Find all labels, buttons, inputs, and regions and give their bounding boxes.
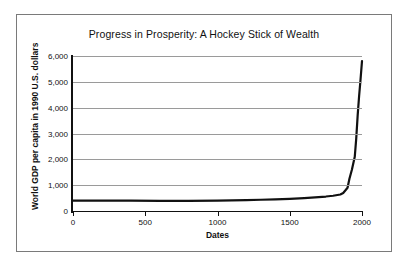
x-axis-tick-label: 1500 bbox=[281, 218, 299, 227]
y-axis-tick-label: 5,000 bbox=[48, 77, 68, 86]
x-axis-title: Dates bbox=[72, 230, 363, 240]
y-axis-tick-label: 0 bbox=[64, 207, 68, 216]
gridline bbox=[73, 185, 362, 186]
gridline bbox=[73, 159, 362, 160]
x-axis-tick bbox=[145, 211, 146, 216]
gridline bbox=[73, 108, 362, 109]
x-axis-tick-label: 2000 bbox=[353, 218, 371, 227]
y-axis-tick-labels: 01,0002,0003,0004,0005,0006,000 bbox=[17, 15, 68, 253]
chart-figure: Progress in Prosperity: A Hockey Stick o… bbox=[16, 14, 392, 252]
y-axis-tick-label: 6,000 bbox=[48, 52, 68, 61]
x-axis-tick bbox=[218, 211, 219, 216]
y-axis-tick-label: 2,000 bbox=[48, 155, 68, 164]
plot-area bbox=[73, 56, 362, 211]
x-axis-tick bbox=[73, 211, 74, 216]
x-axis-tick bbox=[362, 211, 363, 216]
y-axis-tick-label: 3,000 bbox=[48, 129, 68, 138]
x-axis-tick-label: 0 bbox=[71, 218, 75, 227]
y-axis-tick-label: 4,000 bbox=[48, 103, 68, 112]
gridline bbox=[73, 56, 362, 57]
gridline bbox=[73, 134, 362, 135]
y-axis-tick-label: 1,000 bbox=[48, 181, 68, 190]
gridline bbox=[73, 82, 362, 83]
x-axis-tick-label: 500 bbox=[139, 218, 152, 227]
x-axis-tick-label: 1000 bbox=[209, 218, 227, 227]
x-axis-tick bbox=[290, 211, 291, 216]
chart-title: Progress in Prosperity: A Hockey Stick o… bbox=[17, 28, 391, 40]
